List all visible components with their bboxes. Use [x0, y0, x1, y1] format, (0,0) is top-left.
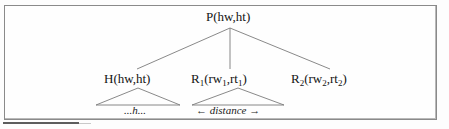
- bottom-rule: [3, 122, 79, 124]
- triangle-r1-subtree: [192, 88, 284, 105]
- edge-root-to-h: [137, 28, 230, 69]
- tree-node-h-label: H(hw,ht): [104, 71, 150, 86]
- tree-node-r2-end: ): [342, 71, 346, 86]
- bottom-rule-fade: [79, 123, 91, 124]
- leaf-label-distance: ← distance →: [196, 105, 260, 116]
- tree-node-r2-sub2: 2: [322, 78, 327, 88]
- tree-node-r2-sub1: 2: [300, 78, 305, 88]
- tree-node-r1-end: ): [242, 71, 246, 86]
- arrow-right-icon: →: [249, 104, 260, 116]
- arrow-left-icon: ←: [196, 104, 207, 116]
- tree-node-r2: R2(rw2,rt2): [291, 72, 347, 85]
- tree-node-r1-sub1: 1: [200, 78, 205, 88]
- triangle-h-subtree: [96, 88, 180, 105]
- tree-node-r1: R1(rw1,rt1): [191, 72, 247, 85]
- tree-node-r1-sub3: 1: [238, 78, 243, 88]
- tree-node-r2-sub3: 2: [338, 78, 343, 88]
- tree-node-r2-sep: ,rt: [327, 71, 338, 86]
- tree-node-r1-sep: ,rt: [227, 71, 238, 86]
- edge-root-to-r2: [230, 28, 330, 69]
- tree-node-r1-mid: (rw: [204, 71, 222, 86]
- leaf-label-h: ...h...: [124, 105, 146, 116]
- tree-node-p: P(hw,ht): [206, 10, 250, 23]
- tree-node-p-label: P(hw,ht): [206, 9, 250, 24]
- tree-node-r2-base: R: [291, 71, 300, 86]
- tree-node-h: H(hw,ht): [104, 72, 150, 85]
- tree-node-r2-mid: (rw: [304, 71, 322, 86]
- leaf-label-h-text: ...h...: [124, 104, 146, 116]
- figure-root: P(hw,ht) H(hw,ht) R1(rw1,rt1) R2(rw2,rt2…: [0, 0, 449, 129]
- leaf-label-distance-text: distance: [210, 104, 247, 116]
- tree-node-r1-base: R: [191, 71, 200, 86]
- tree-node-r1-sub2: 1: [222, 78, 227, 88]
